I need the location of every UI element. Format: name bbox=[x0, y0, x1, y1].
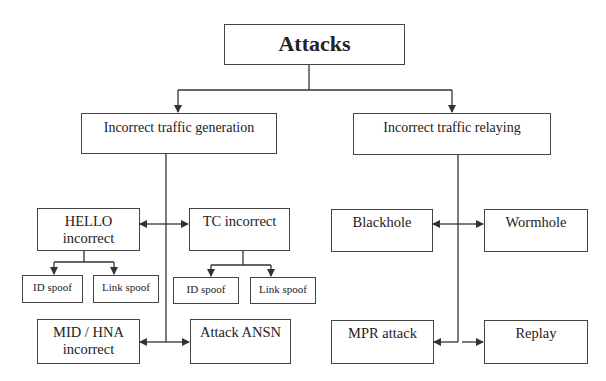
blackhole-node: Blackhole bbox=[331, 209, 433, 252]
hello-link-spoof-label: Link spoof bbox=[94, 281, 158, 294]
hello-id-spoof-node: ID spoof bbox=[22, 275, 83, 303]
tc-incorrect-node: TC incorrect bbox=[189, 208, 290, 251]
attack-ansn-label: Attack ANSN bbox=[191, 324, 290, 341]
incorrect-traffic-relaying-label: Incorrect traffic relaying bbox=[354, 120, 550, 137]
wormhole-label: Wormhole bbox=[485, 214, 587, 231]
attacks-root-label: Attacks bbox=[278, 31, 350, 57]
mpr-attack-label: MPR attack bbox=[332, 325, 433, 342]
mid-hna-incorrect-node: MID / HNA incorrect bbox=[37, 319, 140, 364]
incorrect-traffic-relaying-node: Incorrect traffic relaying bbox=[353, 113, 551, 155]
blackhole-label: Blackhole bbox=[332, 214, 432, 231]
mid-hna-incorrect-label: MID / HNA incorrect bbox=[38, 324, 139, 359]
attack-taxonomy-diagram: Attacks Incorrect traffic generation Inc… bbox=[0, 0, 606, 381]
hello-id-spoof-label: ID spoof bbox=[23, 281, 82, 294]
mpr-attack-node: MPR attack bbox=[331, 320, 434, 364]
tc-incorrect-label: TC incorrect bbox=[190, 213, 289, 230]
attacks-root-node: Attacks bbox=[224, 24, 405, 65]
hello-incorrect-node: HELLO incorrect bbox=[37, 208, 140, 251]
incorrect-traffic-generation-label: Incorrect traffic generation bbox=[82, 120, 276, 137]
incorrect-traffic-generation-node: Incorrect traffic generation bbox=[81, 113, 277, 154]
tc-id-spoof-node: ID spoof bbox=[173, 277, 239, 304]
tc-link-spoof-label: Link spoof bbox=[251, 283, 315, 296]
attack-ansn-node: Attack ANSN bbox=[190, 319, 291, 364]
replay-node: Replay bbox=[484, 320, 588, 364]
hello-link-spoof-node: Link spoof bbox=[93, 275, 159, 303]
replay-label: Replay bbox=[485, 325, 587, 342]
wormhole-node: Wormhole bbox=[484, 209, 588, 252]
hello-incorrect-label: HELLO incorrect bbox=[38, 213, 139, 248]
tc-id-spoof-label: ID spoof bbox=[174, 283, 238, 296]
tc-link-spoof-node: Link spoof bbox=[250, 277, 316, 304]
